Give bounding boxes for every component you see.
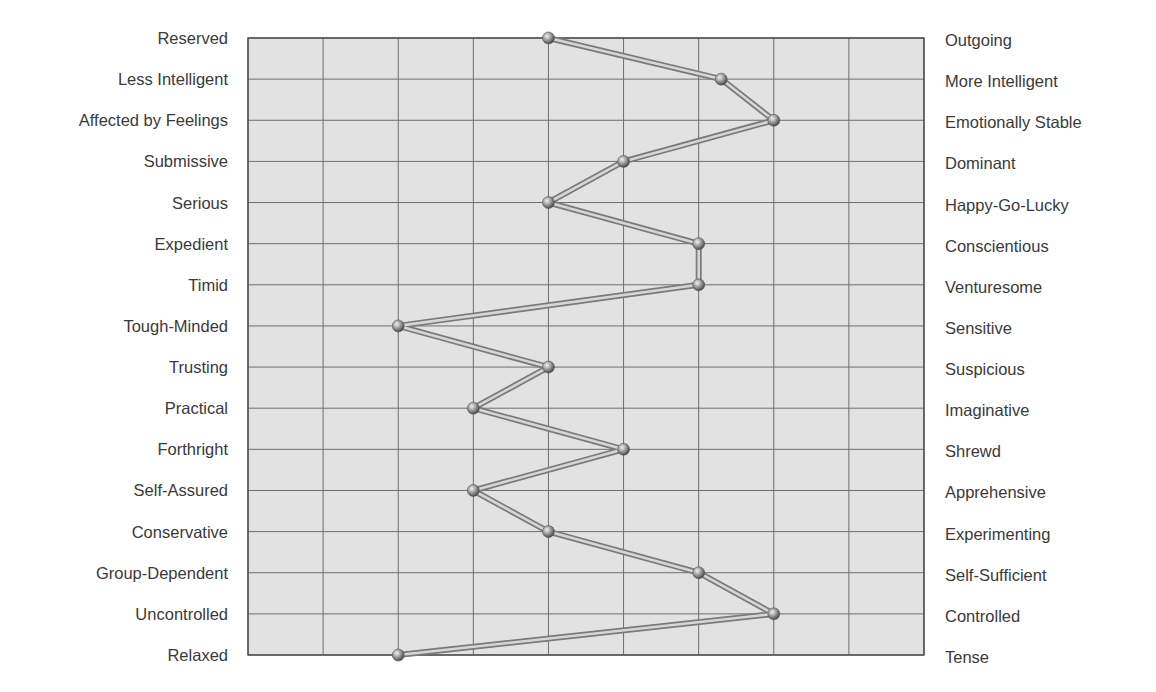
right-trait-label: Imaginative bbox=[945, 400, 1029, 420]
left-trait-label: Forthright bbox=[157, 439, 228, 459]
left-trait-label: Less Intelligent bbox=[118, 69, 228, 89]
left-trait-label: Uncontrolled bbox=[135, 604, 228, 624]
data-point-marker bbox=[768, 608, 780, 620]
data-point-marker bbox=[467, 484, 479, 496]
right-trait-label: Sensitive bbox=[945, 318, 1012, 338]
right-trait-label: Controlled bbox=[945, 606, 1020, 626]
data-point-marker bbox=[693, 279, 705, 291]
right-trait-label: More Intelligent bbox=[945, 71, 1058, 91]
plot-background bbox=[248, 38, 924, 655]
left-trait-label: Practical bbox=[165, 398, 228, 418]
data-point-marker bbox=[392, 649, 404, 661]
data-point-marker bbox=[542, 526, 554, 538]
right-trait-label: Outgoing bbox=[945, 30, 1012, 50]
right-trait-label: Happy-Go-Lucky bbox=[945, 195, 1069, 215]
right-trait-label: Venturesome bbox=[945, 277, 1042, 297]
left-trait-label: Affected by Feelings bbox=[79, 110, 228, 130]
right-trait-label: Dominant bbox=[945, 153, 1016, 173]
right-trait-label: Conscientious bbox=[945, 236, 1049, 256]
data-point-marker bbox=[715, 73, 727, 85]
right-trait-label: Tense bbox=[945, 647, 989, 667]
right-trait-label: Suspicious bbox=[945, 359, 1025, 379]
data-point-marker bbox=[693, 238, 705, 250]
left-trait-label: Conservative bbox=[132, 522, 228, 542]
left-trait-label: Expedient bbox=[155, 234, 228, 254]
right-trait-label: Emotionally Stable bbox=[945, 112, 1082, 132]
plot-area bbox=[0, 0, 1156, 692]
right-trait-label: Experimenting bbox=[945, 524, 1050, 544]
data-point-marker bbox=[392, 320, 404, 332]
data-point-marker bbox=[542, 32, 554, 44]
data-point-marker bbox=[467, 402, 479, 414]
right-trait-label: Apprehensive bbox=[945, 482, 1046, 502]
left-trait-label: Trusting bbox=[169, 357, 228, 377]
data-point-marker bbox=[768, 114, 780, 126]
right-trait-label: Self-Sufficient bbox=[945, 565, 1047, 585]
left-trait-label: Reserved bbox=[157, 28, 228, 48]
left-trait-label: Group-Dependent bbox=[96, 563, 228, 583]
data-point-marker bbox=[542, 197, 554, 209]
data-point-marker bbox=[618, 155, 630, 167]
left-trait-label: Self-Assured bbox=[134, 480, 228, 500]
left-trait-label: Serious bbox=[172, 193, 228, 213]
personality-profile-chart: ReservedLess IntelligentAffected by Feel… bbox=[0, 0, 1156, 692]
left-trait-label: Submissive bbox=[144, 151, 228, 171]
left-trait-label: Relaxed bbox=[167, 645, 228, 665]
data-point-marker bbox=[542, 361, 554, 373]
data-point-marker bbox=[618, 443, 630, 455]
left-trait-label: Tough-Minded bbox=[123, 316, 228, 336]
left-trait-label: Timid bbox=[188, 275, 228, 295]
right-trait-label: Shrewd bbox=[945, 441, 1001, 461]
data-point-marker bbox=[693, 567, 705, 579]
